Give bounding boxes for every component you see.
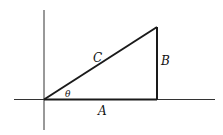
label-a: A [97,104,107,118]
label-b: B [160,54,170,68]
label-theta: θ [65,89,71,99]
right-triangle-diagram: C B A θ [0,0,223,135]
label-c: C [93,51,102,65]
